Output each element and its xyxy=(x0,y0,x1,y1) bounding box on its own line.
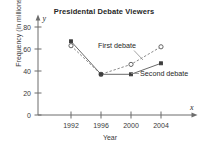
y-axis: y 80 60 40 20 0 xyxy=(23,14,46,119)
y-tick-label-40: 40 xyxy=(23,68,31,75)
annotation-first-debate-label: First debate xyxy=(98,41,136,50)
data-point-first-debate-1992 xyxy=(69,44,73,48)
data-point-second-debate-2004 xyxy=(160,62,163,65)
data-point-first-debate-2000 xyxy=(129,62,133,66)
data-point-second-debate-1992 xyxy=(70,40,73,43)
x-axis-arrow-icon xyxy=(192,113,198,118)
data-point-second-debate-1996 xyxy=(100,73,103,76)
y-tick-label-60: 60 xyxy=(23,46,31,53)
annotation-second-debate-label: Second debate xyxy=(140,69,188,78)
annotation-first-debate-leader xyxy=(134,51,143,61)
y-tick-label-0: 0 xyxy=(27,112,31,119)
y-tick-label-20: 20 xyxy=(23,90,31,97)
x-tick-label-2000: 2000 xyxy=(123,122,139,129)
x-tick-label-2004: 2004 xyxy=(153,122,169,129)
chart-plot-area: y 80 60 40 20 0 x 1992 1996 2000 2004 xyxy=(0,0,208,149)
x-tick-label-1992: 1992 xyxy=(63,122,79,129)
y-axis-symbol: y xyxy=(42,14,47,23)
annotation-second-debate: Second debate xyxy=(131,69,188,78)
data-point-first-debate-2004 xyxy=(159,45,163,49)
x-axis-symbol: x xyxy=(189,103,194,112)
chart-container: Presidental Debate Viewers Frequency (in… xyxy=(0,0,208,149)
x-tick-label-1996: 1996 xyxy=(93,122,109,129)
annotation-first-debate: First debate xyxy=(98,41,143,60)
y-tick-label-80: 80 xyxy=(23,24,31,31)
x-axis: x 1992 1996 2000 2004 xyxy=(38,103,198,129)
y-axis-arrow-icon xyxy=(36,15,41,21)
